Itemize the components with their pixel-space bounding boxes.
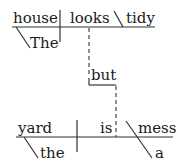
clause-2: yard is mess the a: [16, 119, 177, 162]
clause-1-modifier: The: [30, 34, 59, 52]
conjunction-word: but: [91, 66, 116, 84]
clause-2-complement-modifier: a: [155, 144, 164, 162]
clause-1-complement: tidy: [126, 9, 155, 27]
clause-1: house looks tidy The: [12, 9, 155, 52]
clause-1-verb: looks: [70, 9, 110, 27]
clause-1-modifier-slash: [16, 27, 30, 48]
clause-1-subject: house: [13, 9, 58, 27]
clause-2-complement: mess: [138, 119, 177, 137]
clause-2-verb: is: [100, 119, 113, 137]
clause-1-complement-slash: [114, 11, 123, 27]
clause-2-subject: yard: [17, 119, 53, 137]
sentence-diagram: house looks tidy The but yard is mess th…: [0, 0, 178, 167]
clause-2-subject-modifier: the: [40, 144, 65, 162]
clause-2-subject-modifier-slash: [24, 137, 38, 158]
